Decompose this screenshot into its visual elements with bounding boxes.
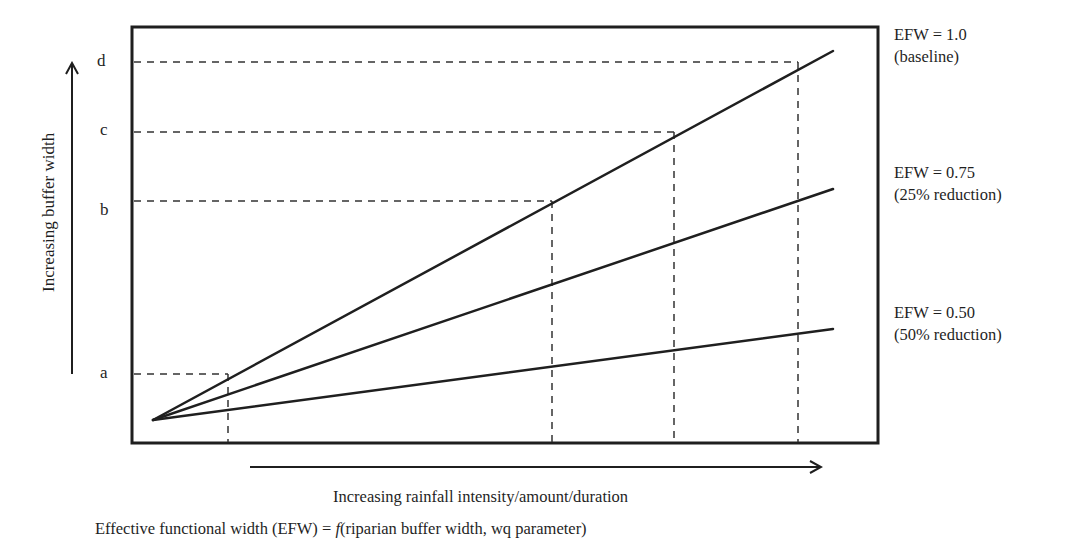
legend-efw-1-0-name: EFW = 1.0 [894,24,967,46]
line-efw-1-0 [153,51,833,420]
efw-lines [153,51,833,420]
level-label-a: a [100,364,108,381]
level-guides [134,62,798,374]
diagram-canvas [0,0,1067,545]
plot-frame [132,27,878,443]
level-label-b: b [100,201,109,218]
legend-efw-0-50-note: (50% reduction) [894,324,1002,346]
x-guides [228,62,798,442]
line-efw-0-75 [153,189,833,420]
x-axis-label: Increasing rainfall intensity/amount/dur… [333,489,628,506]
caption-prefix: Effective functional width (EFW) = [95,519,335,538]
legend-efw-0-75: EFW = 0.75 (25% reduction) [894,162,1002,206]
legend-efw-0-75-note: (25% reduction) [894,184,1002,206]
y-axis-label: Increasing buffer width [40,133,57,292]
legend-efw-0-75-name: EFW = 0.75 [894,162,1002,184]
figure-caption: Effective functional width (EFW) = f(rip… [95,521,587,538]
legend-efw-1-0: EFW = 1.0 (baseline) [894,24,967,68]
legend-efw-0-50-name: EFW = 0.50 [894,302,1002,324]
line-efw-0-50 [153,329,833,420]
level-label-c: c [100,121,108,138]
caption-suffix: (riparian buffer width, wq parameter) [340,519,587,538]
legend-efw-0-50: EFW = 0.50 (50% reduction) [894,302,1002,346]
level-label-d: d [97,52,106,69]
legend-efw-1-0-note: (baseline) [894,46,967,68]
